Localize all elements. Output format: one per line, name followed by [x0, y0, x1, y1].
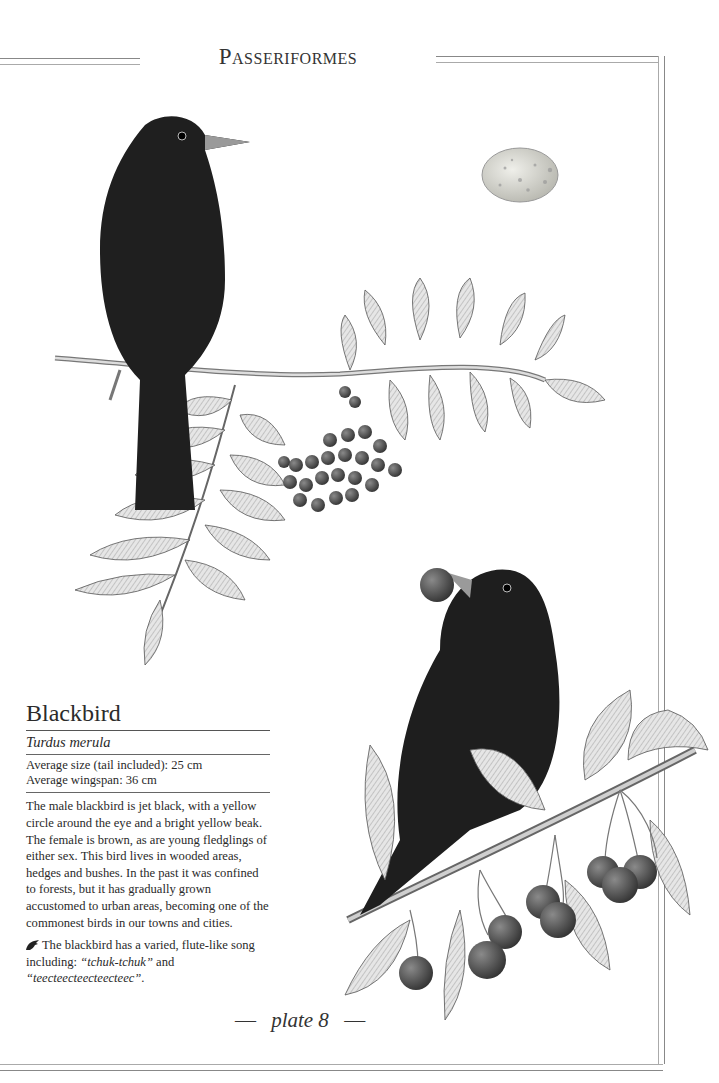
song-call-1: “tchuk-tchuk”	[80, 955, 153, 969]
measurement-size: Average size (tail included): 25 cm	[26, 758, 270, 773]
species-scientific-name: Turdus merula	[26, 731, 270, 755]
song-call-2: “teecteecteecteecteec”	[26, 971, 141, 985]
bottom-bird-illustration	[345, 568, 708, 1020]
species-measurements: Average size (tail included): 25 cm Aver…	[26, 755, 270, 793]
song-end: .	[141, 971, 144, 985]
measurement-wingspan: Average wingspan: 36 cm	[26, 773, 270, 788]
species-song-note: The blackbird has a varied, flute-like s…	[26, 937, 270, 987]
egg-illustration	[482, 148, 558, 202]
footer-dash-right: —	[344, 1008, 365, 1032]
species-info-panel: Blackbird Turdus merula Average size (ta…	[26, 700, 270, 987]
bird-song-icon	[26, 940, 39, 950]
species-description: The male blackbird is jet black, with a …	[26, 798, 270, 931]
plate-footer: — plate 8 —	[0, 1008, 600, 1033]
species-common-name: Blackbird	[26, 700, 270, 731]
footer-dash-left: —	[235, 1008, 256, 1032]
plate-number: plate 8	[271, 1008, 329, 1032]
song-joiner: and	[153, 955, 174, 969]
